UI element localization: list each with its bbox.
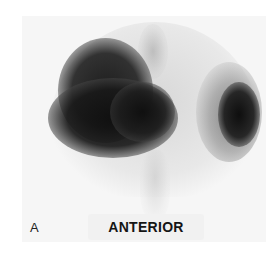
spleen — [218, 82, 260, 147]
panel-letter-label: A — [30, 220, 39, 235]
view-label: ANTERIOR — [88, 219, 204, 235]
spine-activity — [140, 150, 170, 220]
liver-left-lobe — [110, 82, 175, 142]
